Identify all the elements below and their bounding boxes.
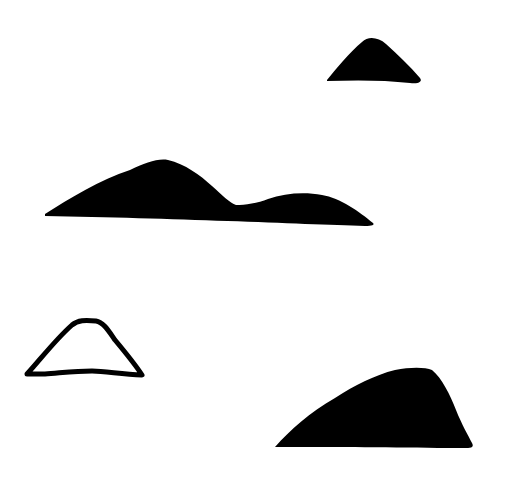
double-hill <box>45 160 374 226</box>
drawing-canvas <box>0 0 507 490</box>
shapes-svg <box>0 0 507 490</box>
outlined-trapezoid-hill <box>27 320 142 375</box>
small-filled-triangle <box>327 38 421 83</box>
large-filled-hill <box>275 368 473 448</box>
